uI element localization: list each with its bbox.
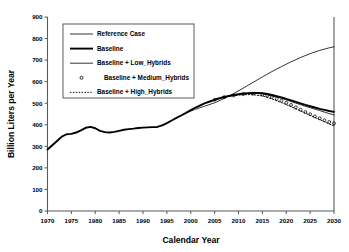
data-point-marker [328, 121, 331, 124]
y-tick-label: 800 [32, 35, 43, 42]
y-tick-label: 100 [32, 186, 43, 193]
chart-legend: Reference CaseBaselineBaseline + Low_Hyb… [63, 24, 194, 98]
series-line [215, 95, 334, 126]
x-axis-title: Calendar Year [162, 235, 220, 245]
x-tick-label: 1985 [112, 217, 126, 224]
y-axis-tick-labels: 0100200300400500600700800900 [32, 13, 43, 214]
x-tick-label: 1975 [64, 217, 78, 224]
data-point-marker [275, 97, 278, 100]
legend-label: Baseline + High_Hybrids [97, 88, 173, 96]
y-tick-label: 0 [39, 207, 43, 214]
legend-label: Baseline + Medium_Hybrids [104, 74, 190, 82]
chart-figure: 0100200300400500600700800900 19701975198… [0, 0, 349, 252]
series-baseline-high-hybrids [215, 95, 334, 126]
x-tick-label: 2030 [327, 217, 341, 224]
data-point-marker [280, 99, 283, 102]
y-tick-label: 500 [32, 100, 43, 107]
x-axis-tick-labels: 1970197519801985199019952000200520102015… [41, 217, 342, 224]
x-tick-label: 1970 [41, 217, 55, 224]
y-tick-label: 300 [32, 143, 43, 150]
x-tick-label: 2000 [184, 217, 198, 224]
x-tick-label: 1990 [136, 217, 150, 224]
x-tick-label: 2010 [232, 217, 246, 224]
legend-label: Baseline [97, 45, 124, 52]
y-tick-label: 200 [32, 164, 43, 171]
x-tick-label: 2015 [255, 217, 269, 224]
x-tick-label: 1995 [160, 217, 174, 224]
line-chart-canvas: 0100200300400500600700800900 19701975198… [0, 0, 349, 252]
x-tick-label: 2005 [208, 217, 222, 224]
x-tick-label: 2020 [279, 217, 293, 224]
y-tick-label: 400 [32, 121, 43, 128]
legend-label: Reference Case [97, 30, 145, 37]
x-tick-label: 2025 [303, 217, 317, 224]
y-axis-title: Billion Liters per Year [6, 69, 16, 158]
y-tick-label: 900 [32, 13, 43, 20]
y-tick-label: 700 [32, 56, 43, 63]
y-tick-label: 600 [32, 78, 43, 85]
legend-label: Baseline + Low_Hybrids [97, 59, 171, 67]
x-tick-label: 1980 [88, 217, 102, 224]
